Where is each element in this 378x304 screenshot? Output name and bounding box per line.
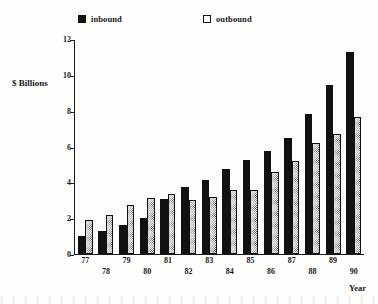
bar-inbound-87 [284,138,292,254]
bar-inbound-88 [305,114,313,254]
y-axis-title: $ Billions [12,78,48,88]
x-axis-title: Year [349,283,366,293]
x-tick-label-83: 83 [205,256,213,265]
bar-inbound-82 [181,187,189,254]
x-tick-label-88: 88 [308,267,316,276]
bar-group [219,40,240,254]
x-tick-label-79: 79 [123,256,131,265]
y-tick-label: 2 [67,214,71,223]
scan-artifact [0,296,378,304]
bar-inbound-78 [98,231,106,254]
bar-group [178,40,199,254]
chart-figure: inbound outbound $ Billions 024681012 77… [0,0,378,304]
bar-outbound-90 [354,117,362,254]
x-tick-label-81: 81 [164,256,172,265]
bar-group [116,40,137,254]
bar-group [137,40,158,254]
bar-inbound-86 [264,151,272,254]
bar-group [343,40,364,254]
x-tick-label-78: 78 [102,267,110,276]
bar-group [96,40,117,254]
y-tick-label: 12 [63,35,71,44]
bar-outbound-87 [292,161,300,254]
bar-group [323,40,344,254]
bar-outbound-81 [168,194,176,254]
bar-inbound-85 [243,160,251,254]
y-tick-label: 4 [67,178,71,187]
bar-group [240,40,261,254]
legend-label-inbound: inbound [91,14,122,24]
bar-group [281,40,302,254]
x-axis-tick-labels: 7778798081828384858687888990 [75,256,364,282]
bar-groups [75,40,364,254]
legend-swatch-outbound-icon [203,15,211,23]
x-tick-label-90: 90 [350,267,358,276]
y-tick-label: 8 [67,107,71,116]
bar-inbound-83 [202,180,210,254]
bar-outbound-80 [147,198,155,254]
bar-inbound-77 [78,236,86,254]
x-tick-label-80: 80 [143,267,151,276]
bar-group [199,40,220,254]
bar-group [261,40,282,254]
x-tick-label-85: 85 [246,256,254,265]
bar-inbound-89 [326,85,334,254]
x-tick-label-84: 84 [226,267,234,276]
x-axis-line [74,254,364,255]
y-tick-label: 0 [67,250,71,259]
bar-outbound-89 [333,134,341,254]
bar-outbound-84 [230,190,238,254]
x-tick-label-86: 86 [267,267,275,276]
bar-inbound-84 [222,169,230,254]
bar-group [75,40,96,254]
chart-legend: inbound outbound [0,12,378,28]
x-tick-label-77: 77 [81,256,89,265]
bar-outbound-78 [106,215,114,254]
bar-group [302,40,323,254]
y-tick-label: 6 [67,143,71,152]
bar-outbound-79 [127,205,135,254]
x-tick-label-87: 87 [288,256,296,265]
bar-inbound-81 [160,199,168,254]
bar-group [158,40,179,254]
bar-inbound-80 [140,218,148,254]
x-tick-label-82: 82 [185,267,193,276]
legend-item-outbound: outbound [203,12,252,26]
bar-outbound-86 [271,172,279,254]
bar-outbound-85 [250,190,258,254]
plot-area: 024681012 [74,40,364,255]
bar-outbound-82 [189,200,197,254]
bar-outbound-88 [312,143,320,254]
legend-label-outbound: outbound [216,14,252,24]
bar-outbound-83 [209,197,217,254]
bar-outbound-77 [85,220,93,254]
x-tick-label-89: 89 [329,256,337,265]
bar-inbound-90 [346,52,354,254]
y-tick-label: 10 [63,71,71,80]
legend-item-inbound: inbound [78,12,122,26]
bar-inbound-79 [119,225,127,254]
legend-swatch-inbound-icon [78,15,86,23]
